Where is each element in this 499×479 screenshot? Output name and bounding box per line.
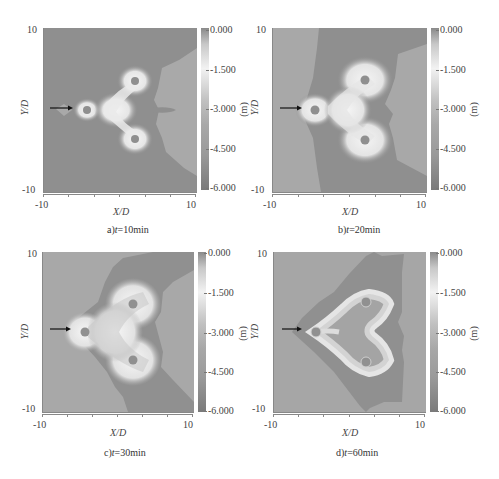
cb-tick-0-a: 0.000 [210, 25, 233, 35]
xtick-right-b: 10 [416, 199, 426, 210]
scour-contour-d [274, 252, 426, 412]
cb-tick-3-c: -4.500 [208, 367, 234, 377]
cb-tick-1-a: -1.500 [210, 65, 236, 75]
cb-unit-d: (m) [468, 326, 479, 340]
cb-tick-3-d: -4.500 [440, 367, 466, 377]
scour-map-d [273, 252, 426, 413]
cb-tick-4-b: -6.000 [440, 183, 466, 193]
cb-tick-3-b: -4.500 [440, 144, 466, 154]
cb-unit-c: (m) [237, 326, 248, 340]
cb-tick-4-a: -6.000 [210, 183, 236, 193]
cb-tick-2-b: -3.000 [440, 104, 466, 114]
colorbar-d [430, 252, 438, 412]
ytick-top-a: 10 [27, 24, 37, 35]
cb-unit-b: (m) [468, 102, 479, 116]
cb-tick-1-b: -1.500 [440, 65, 466, 75]
xtick-left-c: -10 [33, 419, 46, 430]
cb-tick-2-c: -3.000 [208, 328, 234, 338]
scour-map-b [272, 28, 427, 193]
caption-b: b)t=20min [338, 224, 380, 235]
cb-unit-a: (m) [238, 102, 249, 116]
xtick-left-d: -10 [264, 419, 277, 430]
panel-d: 10 -10 Y/D -10 10 X/D 0.000 -1.500 -3.00… [250, 240, 499, 479]
xtick-right-c: 10 [183, 419, 193, 430]
panel-a: 10 -10 Y/D -10 10 X/D 0.000 -1.500 -3.00… [0, 0, 250, 240]
cb-tick-0-b: 0.000 [440, 25, 463, 35]
scour-contour-b [273, 28, 427, 192]
xtick-left-b: -10 [263, 199, 276, 210]
cb-tick-4-d: -6.000 [440, 406, 466, 416]
cb-tick-0-d: 0.000 [440, 248, 463, 258]
cb-tick-1-c: -1.500 [208, 288, 234, 298]
cb-tick-0-c: 0.000 [208, 248, 231, 258]
ylabel-b: Y/D [249, 100, 260, 116]
ytick-top-b: 10 [256, 24, 266, 35]
scour-map-a [43, 28, 197, 193]
xlabel-d: X/D [342, 427, 358, 438]
xtick-right-d: 10 [415, 419, 425, 430]
scour-map-c [42, 252, 194, 413]
ylabel-c: Y/D [19, 324, 30, 340]
cb-tick-4-c: -6.000 [208, 406, 234, 416]
ytick-bottom-a: -10 [22, 184, 35, 195]
scour-contour-c [43, 252, 194, 412]
ytick-bottom-d: -10 [252, 403, 265, 414]
cb-tick-1-d: -1.500 [440, 288, 466, 298]
cb-tick-2-a: -3.000 [210, 104, 236, 114]
scour-contour-a [44, 28, 197, 192]
panel-c: 10 -10 Y/D -10 10 X/D 0.000 -1.500 -3.00… [0, 240, 250, 479]
ytick-top-d: 10 [257, 248, 267, 259]
xtick-right-a: 10 [186, 199, 196, 210]
ylabel-a: Y/D [19, 100, 30, 116]
panel-b: 10 -10 Y/D -10 10 X/D 0.000 -1.500 -3.00… [250, 0, 499, 240]
caption-c: c)t=30min [104, 447, 146, 458]
colorbar-c [198, 252, 206, 412]
ytick-bottom-c: -10 [22, 403, 35, 414]
xlabel-c: X/D [110, 427, 126, 438]
ytick-bottom-b: -10 [251, 184, 264, 195]
cb-tick-3-a: -4.500 [210, 144, 236, 154]
xlabel-b: X/D [342, 206, 358, 217]
xtick-left-a: -10 [35, 199, 48, 210]
caption-a: a)t=10min [107, 224, 149, 235]
cb-tick-2-d: -3.000 [440, 328, 466, 338]
ylabel-d: Y/D [249, 324, 260, 340]
caption-d: d)t=60min [336, 447, 378, 458]
ytick-top-c: 10 [27, 248, 37, 259]
xlabel-a: X/D [113, 206, 129, 217]
